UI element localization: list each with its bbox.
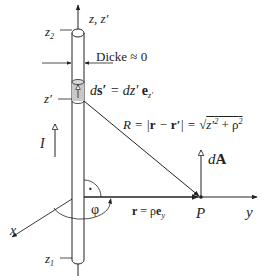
z1-label: z1 xyxy=(45,252,54,268)
z2-label: z2 xyxy=(45,25,54,41)
x-axis xyxy=(12,199,72,237)
R-formula: R = |r − r′| = √z′2 + ρ2 xyxy=(123,118,243,131)
current-label: I xyxy=(40,137,45,151)
thickness-label: Dicke ≈ 0 xyxy=(96,50,147,63)
r-vector-label: r = ρey xyxy=(132,205,165,220)
zprime-label: z′ xyxy=(44,92,52,105)
current-filament-diagram: z, z′ z2 Dicke ≈ 0 ds′ = dz′ ez′ z′ R = … xyxy=(0,0,264,276)
conductor-cylinder xyxy=(72,29,84,264)
x-axis-label: x xyxy=(10,224,16,238)
phi-label: φ xyxy=(91,203,99,217)
z-axis-label: z, z′ xyxy=(89,12,108,25)
right-angle-dot: · xyxy=(88,183,93,197)
ds-label: ds′ = dz′ ez′ xyxy=(90,84,153,100)
current-element-segment xyxy=(72,80,84,104)
y-axis-label: y xyxy=(246,205,253,220)
phi-arc xyxy=(54,200,110,219)
R-vector xyxy=(84,101,199,196)
dA-label: dA xyxy=(208,152,226,167)
P-label: P xyxy=(196,206,205,221)
